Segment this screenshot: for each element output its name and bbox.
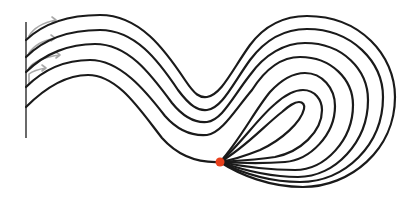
streamline-3 bbox=[26, 43, 368, 177]
diagram-canvas bbox=[0, 0, 413, 202]
streamline-2 bbox=[26, 29, 383, 182]
sink-loop-inner bbox=[220, 102, 304, 162]
closed-loops bbox=[220, 73, 335, 163]
streamline-diagram bbox=[0, 0, 413, 202]
streamlines bbox=[26, 15, 395, 187]
sink-point-marker bbox=[216, 158, 225, 167]
